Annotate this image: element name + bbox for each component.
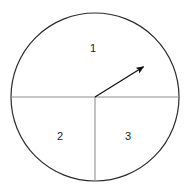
spinner-figure: 1 2 3 bbox=[0, 0, 185, 192]
spinner-svg: 1 2 3 bbox=[0, 0, 185, 192]
sector-label-1: 1 bbox=[90, 42, 96, 54]
sector-label-3: 3 bbox=[125, 130, 131, 142]
sector-label-2: 2 bbox=[57, 130, 63, 142]
